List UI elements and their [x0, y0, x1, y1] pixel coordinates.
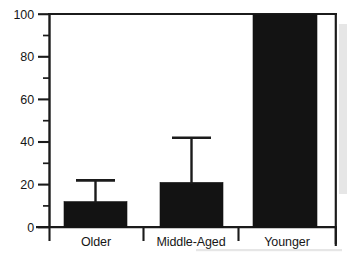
bar-younger	[253, 15, 317, 228]
chart-canvas: 100 80 60 40 20 0 Older Middle-Aged Youn…	[0, 0, 355, 258]
x-category-label-older: Older	[81, 235, 111, 249]
y-tick-label-20: 20	[20, 178, 34, 192]
scan-artifact	[196, 249, 342, 251]
x-category-label-middle-aged: Middle-Aged	[156, 235, 225, 249]
bar-middle-aged	[160, 182, 223, 227]
y-tick-label-40: 40	[20, 135, 34, 149]
bar-chart-figure: 100 80 60 40 20 0 Older Middle-Aged Youn…	[0, 0, 355, 258]
y-tick-label-0: 0	[27, 221, 34, 235]
x-category-label-younger: Younger	[264, 235, 309, 249]
bar-older	[64, 202, 127, 228]
y-tick-label-80: 80	[20, 50, 34, 64]
y-tick-label-100: 100	[13, 8, 34, 22]
y-tick-label-60: 60	[20, 93, 34, 107]
scan-artifact	[339, 24, 347, 194]
